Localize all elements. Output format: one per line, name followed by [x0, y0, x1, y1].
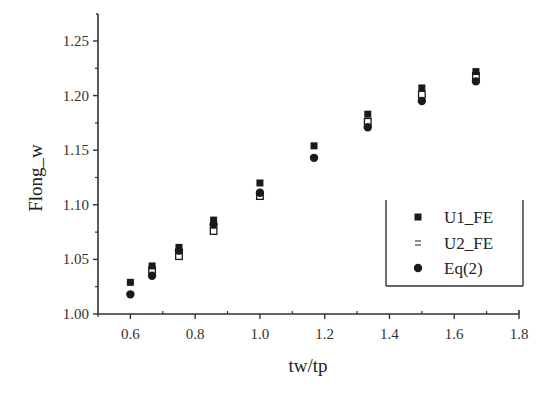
x-tick-label: 1.6	[445, 326, 464, 342]
data-point	[472, 77, 480, 85]
data-point	[364, 123, 372, 131]
y-tick-label: 1.15	[63, 142, 89, 158]
data-point	[256, 179, 263, 186]
data-point	[472, 68, 479, 75]
x-tick-label: 1.2	[315, 326, 334, 342]
x-tick-label: 1.0	[251, 326, 270, 342]
scatter-chart: 1.001.051.101.151.201.250.60.81.01.21.41…	[0, 0, 558, 401]
data-point	[364, 111, 371, 118]
x-tick-label: 0.6	[121, 326, 140, 342]
data-point	[311, 142, 318, 149]
x-axis-label: tw/tp	[288, 355, 327, 376]
data-point	[126, 290, 134, 298]
data-point	[210, 217, 217, 224]
legend-label: Eq(2)	[444, 259, 483, 278]
y-tick-label: 1.00	[63, 306, 89, 322]
data-point	[127, 279, 134, 286]
y-tick-label: 1.20	[63, 88, 89, 104]
data-point	[310, 154, 318, 162]
legend-marker-icon	[414, 264, 422, 272]
data-points	[126, 68, 480, 298]
y-tick-label: 1.10	[63, 197, 89, 213]
legend-label: U2_FE	[444, 234, 493, 253]
y-axis-label: Flong_w	[25, 144, 46, 212]
x-tick-label: 1.8	[510, 326, 529, 342]
data-point	[149, 262, 156, 269]
x-tick-label: 1.4	[380, 326, 399, 342]
y-tick-label: 1.05	[63, 251, 89, 267]
legend: U1_FEU2_FEEq(2)	[386, 200, 523, 286]
data-point	[210, 228, 217, 235]
data-point	[256, 189, 264, 197]
legend-marker-icon	[415, 214, 422, 221]
data-point	[419, 91, 426, 98]
data-point	[418, 84, 425, 91]
data-point	[175, 244, 182, 251]
y-tick-label: 1.25	[63, 33, 89, 49]
data-point	[418, 97, 426, 105]
data-point	[148, 272, 156, 280]
legend-label: U1_FE	[444, 208, 493, 227]
x-tick-label: 0.8	[186, 326, 205, 342]
